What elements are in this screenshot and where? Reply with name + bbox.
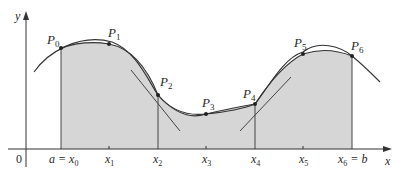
x-axis-arrow-icon: [383, 146, 392, 152]
label-p3: P3: [201, 95, 215, 112]
tick-label-x1: x1: [104, 152, 114, 168]
point-p6: [350, 54, 354, 58]
label-p1: P1: [107, 25, 120, 42]
point-p3: [204, 112, 208, 116]
point-p0: [59, 46, 63, 50]
point-p2: [156, 93, 160, 97]
y-axis-label: y: [14, 9, 21, 23]
tick-label-x5: x5: [298, 152, 308, 168]
tick-label-x0: a = x0: [49, 152, 78, 168]
label-p6: P6: [350, 38, 364, 55]
y-axis-arrow-icon: [23, 11, 29, 20]
label-p2: P2: [159, 74, 172, 91]
label-p5: P5: [293, 35, 307, 52]
tick-label-x3: x3: [201, 152, 211, 168]
point-p5: [301, 52, 305, 56]
origin-label: 0: [16, 152, 22, 166]
tick-label-x6: x6 = b: [337, 152, 367, 168]
x-axis-label: x: [384, 154, 391, 168]
point-p1: [107, 42, 111, 46]
label-p0: P0: [46, 32, 60, 49]
tick-label-x2: x2: [152, 152, 162, 168]
simpsons-rule-diagram: P0 P1 P2 P3 P4 P5 P6 y x 0 a = x0 x1 x2 …: [0, 0, 408, 182]
tick-label-x4: x4: [250, 152, 260, 168]
label-p4: P4: [242, 86, 256, 103]
